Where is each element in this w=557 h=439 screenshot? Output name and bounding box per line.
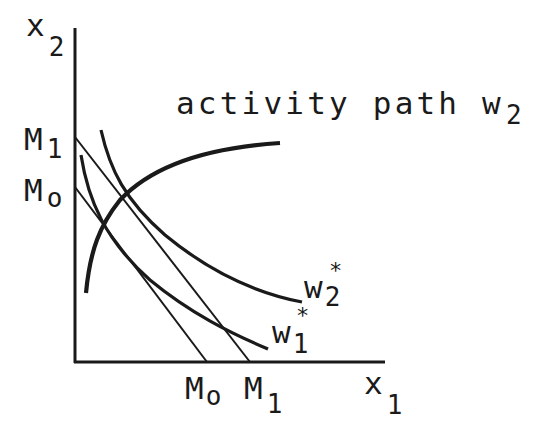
x-axis-label: x1 <box>364 372 402 403</box>
x-tick-m0: Mo <box>185 373 221 404</box>
activity-path-label-text: activity path w <box>176 85 504 121</box>
x-tick-m1-sub: 1 <box>267 389 283 419</box>
w1-star-label: w1 * <box>272 317 308 348</box>
y-tick-m1: M1 <box>24 124 62 155</box>
y-tick-m1-sub: 1 <box>47 134 63 164</box>
activity-path-curve <box>86 143 280 293</box>
w1-star-label-sub: 1 <box>293 329 309 359</box>
w2-star-label: w2 * <box>304 272 340 303</box>
y-tick-m0: Mo <box>24 175 62 206</box>
y-axis-label-sub: 2 <box>49 32 65 62</box>
w1-star-label-base: w <box>272 314 291 350</box>
y-tick-m1-base: M <box>24 121 43 157</box>
activity-path-label: activity path w2 <box>176 88 525 119</box>
y-tick-m0-sub: o <box>47 183 63 213</box>
x-tick-m0-sub: o <box>206 381 222 411</box>
x-axis-label-base: x <box>364 365 383 401</box>
x-tick-m1: M1 <box>244 373 282 404</box>
x-axis-label-sub: 1 <box>387 390 403 420</box>
w2-star-label-base: w <box>304 269 323 305</box>
w2-star-label-sup: * <box>329 260 342 282</box>
x-tick-m0-base: M <box>185 370 204 406</box>
w1-star-label-sup: * <box>296 305 309 327</box>
y-tick-m0-base: M <box>24 172 43 208</box>
w2-star-label-sub: 2 <box>325 282 341 312</box>
y-axis-label: x2 <box>26 16 64 47</box>
x-tick-m1-base: M <box>244 370 263 406</box>
y-axis-label-base: x <box>26 7 45 43</box>
activity-path-label-sub: 2 <box>506 100 525 130</box>
